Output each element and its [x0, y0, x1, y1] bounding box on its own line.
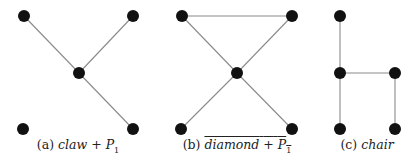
caption-a-name: claw [58, 137, 87, 152]
vertex [176, 10, 188, 22]
caption-c: (c) chair [340, 137, 393, 152]
caption-b-expression: diamond + P1 [204, 137, 291, 152]
caption-a-p: P [106, 137, 114, 152]
edge [237, 73, 292, 129]
vertex [127, 123, 139, 135]
caption-a: (a) claw + P1 [37, 137, 119, 155]
edge [181, 73, 237, 129]
caption-b: (b) diamond + P1 [183, 137, 292, 155]
caption-a-plus: + [91, 137, 101, 152]
vertex [286, 10, 298, 22]
vertex [389, 123, 401, 135]
edge [79, 73, 133, 129]
caption-a-label: (a) [37, 137, 54, 152]
vertex [231, 67, 243, 79]
caption-c-label: (c) [340, 137, 357, 152]
caption-c-name: chair [361, 137, 393, 152]
vertex [334, 67, 346, 79]
vertex [127, 10, 139, 22]
vertex [17, 123, 29, 135]
caption-a-sub: 1 [114, 146, 119, 155]
vertex [334, 123, 346, 135]
graph-diamond-plus-p1-complement [175, 10, 298, 135]
edge [79, 16, 133, 73]
vertex [175, 123, 187, 135]
graph-chair [334, 10, 401, 135]
vertex [73, 67, 85, 79]
caption-b-label: (b) [183, 137, 201, 152]
caption-b-name: diamond [204, 137, 259, 152]
edge [182, 16, 237, 73]
edge [24, 16, 79, 73]
vertex [286, 123, 298, 135]
vertex [389, 67, 401, 79]
graph-claw-plus-p1 [17, 10, 139, 135]
vertex [334, 10, 346, 22]
edge [237, 16, 292, 73]
caption-b-p: P [278, 137, 286, 152]
vertex [18, 10, 30, 22]
caption-b-sub: 1 [286, 146, 291, 155]
caption-b-plus: + [263, 137, 273, 152]
